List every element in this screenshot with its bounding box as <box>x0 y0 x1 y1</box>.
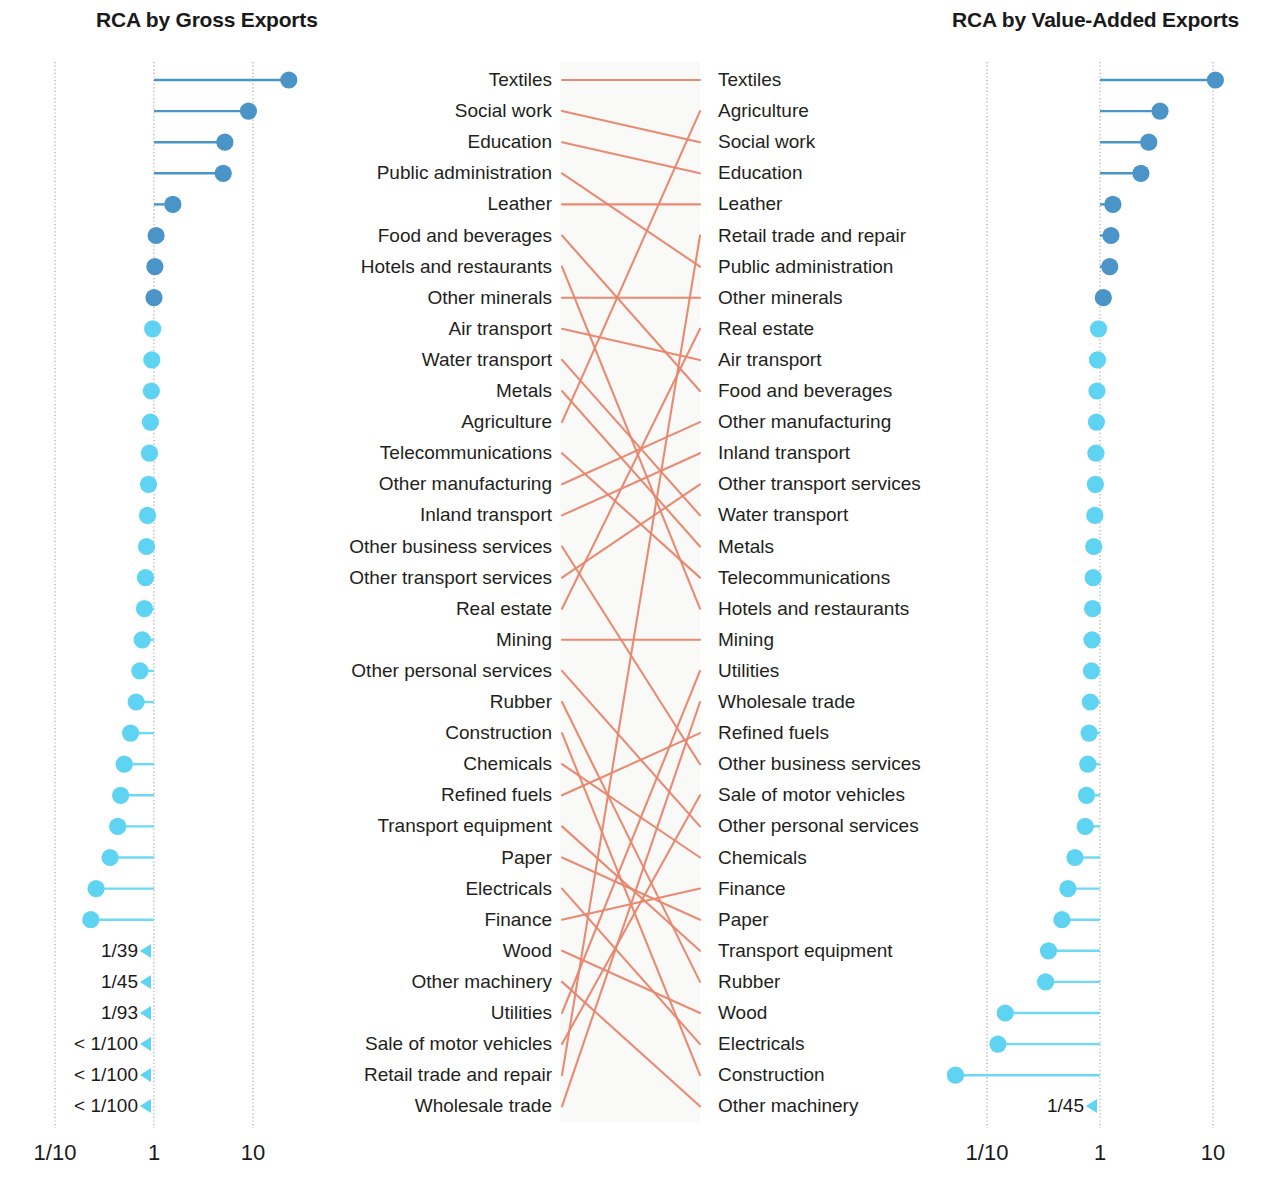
left-category-label-2: Social work <box>330 100 552 122</box>
lollipop-right-19 <box>1083 631 1100 648</box>
lollipop-dot[interactable] <box>997 1004 1014 1021</box>
lollipop-dot[interactable] <box>1087 445 1104 462</box>
lollipop-dot[interactable] <box>1132 165 1149 182</box>
right-category-label-24: Sale of motor vehicles <box>718 784 958 806</box>
lollipop-dot[interactable] <box>1084 600 1101 617</box>
lollipop-left-12 <box>142 414 159 431</box>
lollipop-right-31 <box>997 1004 1100 1021</box>
lollipop-dot[interactable] <box>1085 538 1102 555</box>
lollipop-dot[interactable] <box>143 351 160 368</box>
left-category-label-8: Other minerals <box>330 287 552 309</box>
lollipop-dot[interactable] <box>144 320 161 337</box>
lollipop-dot[interactable] <box>1090 320 1107 337</box>
left-category-label-25: Transport equipment <box>330 815 552 837</box>
lollipop-dot[interactable] <box>1104 196 1121 213</box>
lollipop-dot[interactable] <box>1207 71 1224 88</box>
slopegraph-canvas <box>0 0 1262 1183</box>
lollipop-dot[interactable] <box>1088 414 1105 431</box>
lollipop-dot[interactable] <box>1082 693 1099 710</box>
lollipop-dot[interactable] <box>1088 382 1105 399</box>
lollipop-dot[interactable] <box>215 165 232 182</box>
lollipop-right-23 <box>1079 756 1100 773</box>
left-category-label-22: Construction <box>330 722 552 744</box>
left-category-label-20: Other personal services <box>330 660 552 682</box>
lollipop-dot[interactable] <box>1089 351 1106 368</box>
left-category-label-29: Wood <box>330 940 552 962</box>
lollipop-dot[interactable] <box>112 787 129 804</box>
right-category-label-2: Agriculture <box>718 100 958 122</box>
lollipop-dot[interactable] <box>1059 880 1076 897</box>
lollipop-dot[interactable] <box>134 631 151 648</box>
lollipop-dot[interactable] <box>136 600 153 617</box>
lollipop-right-26 <box>1066 849 1100 866</box>
lollipop-dot[interactable] <box>1077 818 1094 835</box>
lollipop-dot[interactable] <box>142 414 159 431</box>
lollipop-dot[interactable] <box>146 258 163 275</box>
lollipop-dot[interactable] <box>1086 507 1103 524</box>
lollipop-right-32 <box>989 1036 1100 1053</box>
right-category-label-3: Social work <box>718 131 958 153</box>
lollipop-dot[interactable] <box>1085 569 1102 586</box>
lollipop-dot[interactable] <box>1066 849 1083 866</box>
lollipop-dot[interactable] <box>1040 942 1057 959</box>
lollipop-dot[interactable] <box>1087 476 1104 493</box>
lollipop-dot[interactable] <box>1078 787 1095 804</box>
lollipop-dot[interactable] <box>143 382 160 399</box>
lollipop-dot[interactable] <box>109 818 126 835</box>
offscale-arrow-left-29 <box>140 944 151 958</box>
lollipop-dot[interactable] <box>116 756 133 773</box>
lollipop-dot[interactable] <box>1053 911 1070 928</box>
lollipop-dot[interactable] <box>87 880 104 897</box>
lollipop-dot[interactable] <box>1037 973 1054 990</box>
lollipop-dot[interactable] <box>147 227 164 244</box>
lollipop-dot[interactable] <box>1080 725 1097 742</box>
left-category-label-17: Other transport services <box>330 567 552 589</box>
right-category-label-4: Education <box>718 162 958 184</box>
lollipop-dot[interactable] <box>1083 662 1100 679</box>
lollipop-dot[interactable] <box>1140 134 1157 151</box>
right-category-label-5: Leather <box>718 193 958 215</box>
lollipop-dot[interactable] <box>216 134 233 151</box>
lollipop-dot[interactable] <box>137 569 154 586</box>
lollipop-dot[interactable] <box>280 71 297 88</box>
left-category-label-34: Wholesale trade <box>330 1095 552 1117</box>
lollipop-left-22 <box>122 725 154 742</box>
lollipop-dot[interactable] <box>139 507 156 524</box>
right-category-label-34: Other machinery <box>718 1095 958 1117</box>
lollipop-dot[interactable] <box>141 445 158 462</box>
lollipop-dot[interactable] <box>140 476 157 493</box>
lollipop-right-16 <box>1085 538 1102 555</box>
lollipop-dot[interactable] <box>1079 756 1096 773</box>
lollipop-right-13 <box>1087 445 1104 462</box>
lollipop-dot[interactable] <box>1151 103 1168 120</box>
lollipop-dot[interactable] <box>1083 631 1100 648</box>
lollipop-dot[interactable] <box>164 196 181 213</box>
lollipop-right-18 <box>1084 600 1101 617</box>
lollipop-dot[interactable] <box>1101 258 1118 275</box>
left-category-label-15: Inland transport <box>330 504 552 526</box>
lollipop-left-4 <box>154 165 232 182</box>
right-category-label-27: Finance <box>718 878 958 900</box>
lollipop-dot[interactable] <box>1095 289 1112 306</box>
lollipop-dot[interactable] <box>138 538 155 555</box>
lollipop-dot[interactable] <box>131 662 148 679</box>
lollipop-dot[interactable] <box>122 725 139 742</box>
lollipop-dot[interactable] <box>82 911 99 928</box>
axis-tick-right-1-10: 1/10 <box>966 1140 1009 1166</box>
lollipop-dot[interactable] <box>989 1036 1006 1053</box>
lollipop-dot[interactable] <box>1102 227 1119 244</box>
left-category-label-5: Leather <box>330 193 552 215</box>
lollipop-dot[interactable] <box>101 849 118 866</box>
left-category-label-6: Food and beverages <box>330 225 552 247</box>
lollipop-dot[interactable] <box>240 103 257 120</box>
right-category-label-25: Other personal services <box>718 815 958 837</box>
right-category-label-28: Paper <box>718 909 958 931</box>
lollipop-dot[interactable] <box>145 289 162 306</box>
lollipop-left-26 <box>101 849 154 866</box>
right-category-label-26: Chemicals <box>718 847 958 869</box>
lollipop-right-14 <box>1087 476 1104 493</box>
right-category-label-18: Hotels and restaurants <box>718 598 958 620</box>
lollipop-left-6 <box>147 227 164 244</box>
right-category-label-13: Inland transport <box>718 442 958 464</box>
lollipop-dot[interactable] <box>128 693 145 710</box>
